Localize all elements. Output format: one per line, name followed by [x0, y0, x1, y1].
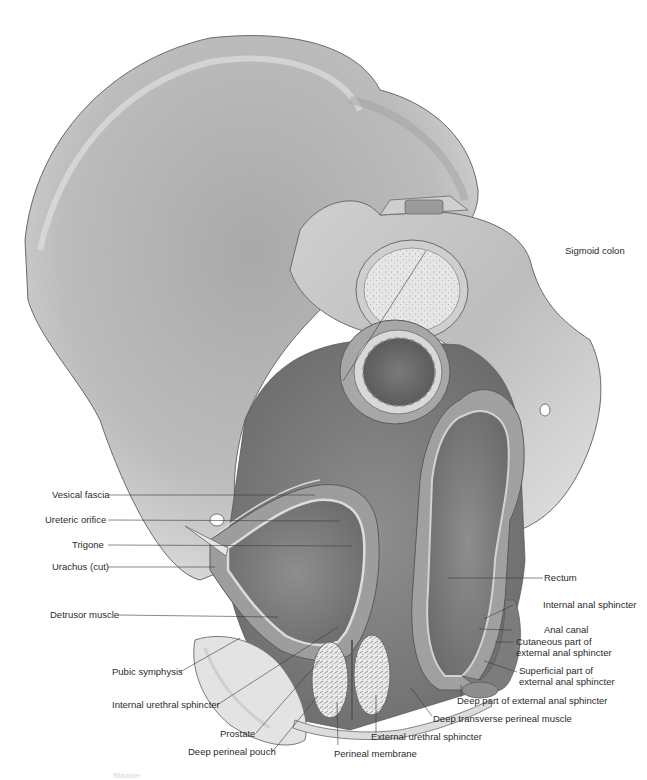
label-external-urethral-sphincter: External urethral sphincter [371, 731, 482, 742]
label-superficial-part-external-anal-sphincter: Superficial part of external anal sphinc… [519, 665, 647, 687]
label-internal-urethral-sphincter: Internal urethral sphincter [112, 699, 220, 710]
label-rectum: Rectum [544, 572, 577, 583]
label-line-1: Cutaneous part of [516, 636, 647, 647]
label-anal-canal: Anal canal [544, 624, 588, 635]
label-cutaneous-part-external-anal-sphincter: Cutaneous part of external anal sphincte… [516, 636, 647, 658]
label-deep-perineal-pouch: Deep perineal pouch [188, 746, 276, 757]
label-vesical-fascia: Vesical fascia [52, 489, 110, 500]
label-sigmoid-colon: Sigmoid colon [565, 245, 625, 256]
prostate [312, 635, 390, 720]
label-line-2: external anal sphincter [519, 676, 647, 687]
pelvis-illustration [0, 0, 647, 780]
label-ureteric-orifice: Ureteric orifice [45, 514, 106, 525]
foramen [210, 514, 224, 526]
faint-caption: Bladder [113, 771, 141, 780]
label-urachus-cut: Urachus (cut) [52, 561, 109, 572]
sigmoid-colon [340, 320, 450, 424]
label-deep-part-external-anal-sphincter: Deep part of external anal sphincter [457, 695, 608, 706]
label-pubic-symphysis: Pubic symphysis [112, 666, 183, 677]
label-internal-anal-sphincter: Internal anal sphincter [543, 599, 636, 610]
label-line-2: external anal sphincter [516, 647, 647, 658]
label-prostate: Prostate [220, 728, 255, 739]
label-perineal-membrane: Perineal membrane [334, 748, 417, 759]
label-trigone: Trigone [72, 539, 104, 550]
sacral-foramen [540, 404, 550, 416]
label-line-1: Superficial part of [519, 665, 647, 676]
label-detrusor-muscle: Detrusor muscle [50, 609, 119, 620]
label-deep-transverse-perineal-muscle: Deep transverse perineal muscle [433, 713, 572, 724]
